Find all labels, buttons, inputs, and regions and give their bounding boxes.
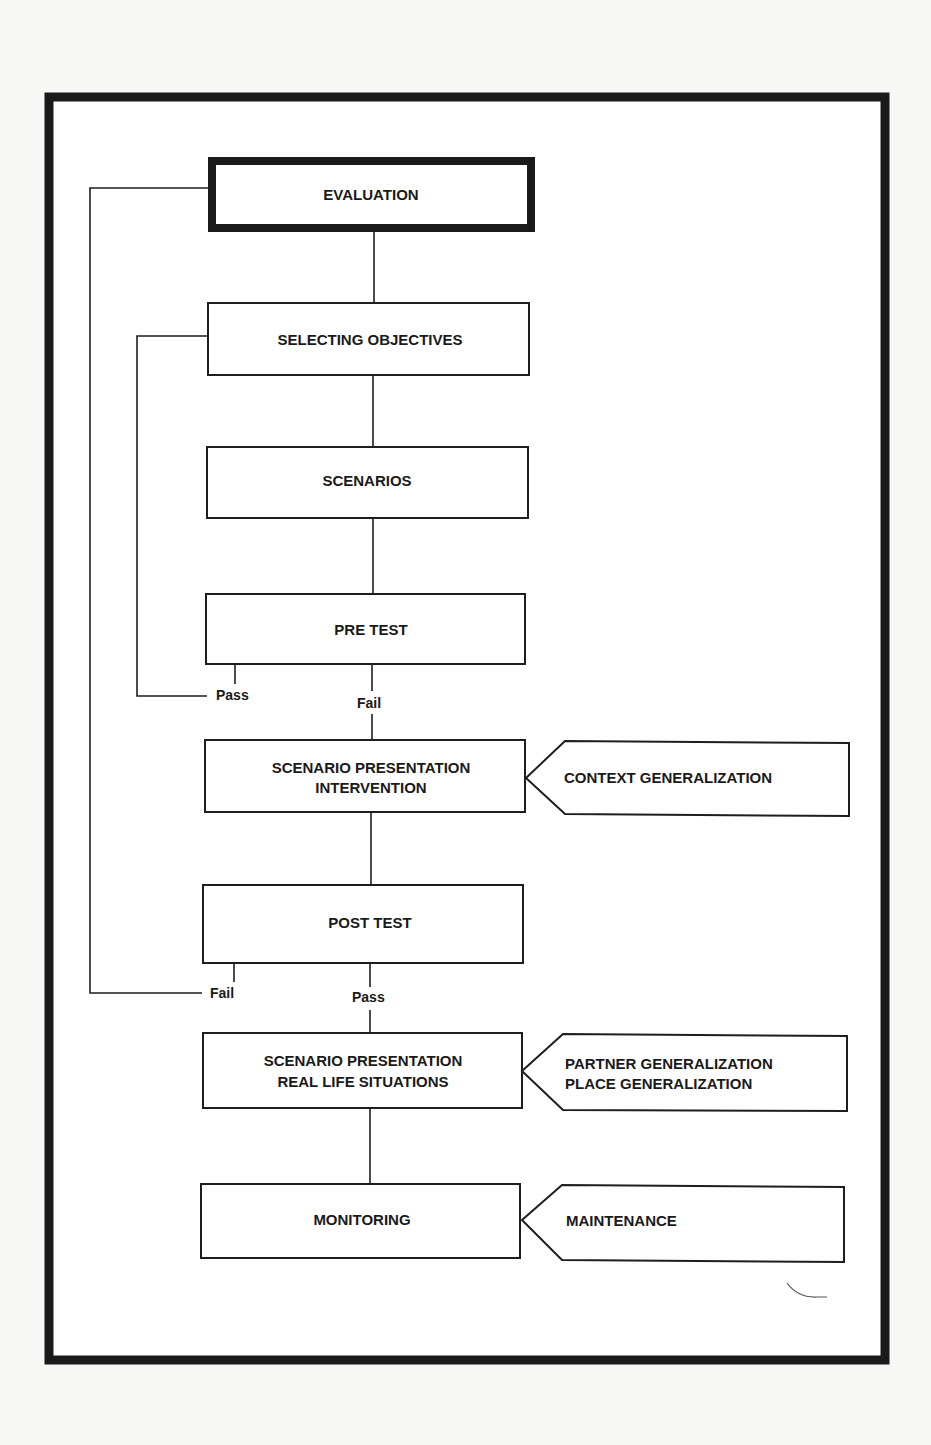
node-scenario-real-life-line2: REAL LIFE SITUATIONS (277, 1073, 448, 1090)
node-pre-test: PRE TEST (206, 594, 525, 664)
node-monitoring-label: MONITORING (313, 1211, 410, 1228)
node-scenario-intervention-line1: SCENARIO PRESENTATION (272, 759, 471, 776)
side-node-partner-place-generalization: PARTNER GENERALIZATION PLACE GENERALIZAT… (522, 1034, 847, 1111)
side-node-context-generalization: CONTEXT GENERALIZATION (526, 741, 849, 816)
posttest-pass-label: Pass (352, 989, 385, 1005)
node-scenarios: SCENARIOS (207, 447, 528, 518)
side-node-partner-generalization-label: PARTNER GENERALIZATION (565, 1055, 773, 1072)
pretest-pass-label: Pass (216, 687, 249, 703)
node-scenario-real-life-line1: SCENARIO PRESENTATION (264, 1052, 463, 1069)
node-monitoring: MONITORING (201, 1184, 520, 1258)
node-pre-test-label: PRE TEST (334, 621, 407, 638)
side-node-context-generalization-label: CONTEXT GENERALIZATION (564, 769, 772, 786)
node-scenario-intervention-line2: INTERVENTION (315, 779, 426, 796)
side-node-maintenance-label: MAINTENANCE (566, 1212, 677, 1229)
node-selecting-objectives: SELECTING OBJECTIVES (208, 303, 529, 375)
posttest-fail-label: Fail (210, 985, 234, 1001)
node-selecting-objectives-label: SELECTING OBJECTIVES (277, 331, 462, 348)
node-scenario-real-life: SCENARIO PRESENTATION REAL LIFE SITUATIO… (203, 1033, 522, 1108)
node-post-test-label: POST TEST (328, 914, 411, 931)
pretest-fail-label: Fail (357, 695, 381, 711)
node-scenarios-label: SCENARIOS (322, 472, 411, 489)
node-post-test: POST TEST (203, 885, 523, 963)
flowchart-diagram: EVALUATION SELECTING OBJECTIVES SCENARIO… (0, 0, 931, 1445)
side-node-maintenance: MAINTENANCE (522, 1185, 844, 1262)
outer-frame (49, 97, 885, 1360)
node-scenario-intervention: SCENARIO PRESENTATION INTERVENTION (205, 740, 525, 812)
node-evaluation-label: EVALUATION (323, 186, 418, 203)
side-node-place-generalization-label: PLACE GENERALIZATION (565, 1075, 752, 1092)
node-evaluation: EVALUATION (212, 161, 531, 228)
